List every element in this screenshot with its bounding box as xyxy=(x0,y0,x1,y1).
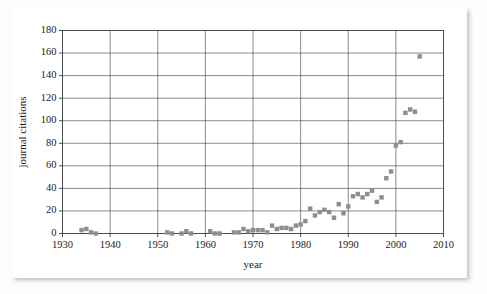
y-tick-label: 180 xyxy=(41,24,57,35)
data-point xyxy=(265,230,269,234)
data-point xyxy=(217,231,221,235)
data-point xyxy=(337,202,341,206)
data-point xyxy=(394,143,398,147)
data-point xyxy=(184,229,188,233)
data-point xyxy=(365,192,369,196)
data-point xyxy=(284,226,288,230)
data-point xyxy=(270,223,274,227)
data-point xyxy=(379,195,383,199)
x-axis-tick-labels: 193019401950196019701980199020002010 xyxy=(52,239,454,250)
data-point xyxy=(170,231,174,235)
y-axis-tick-labels: 020406080100120140160180 xyxy=(41,24,57,238)
data-point xyxy=(417,54,421,58)
data-point xyxy=(413,110,417,114)
y-axis-title: journal citations xyxy=(16,96,28,168)
data-point xyxy=(327,210,331,214)
data-points xyxy=(79,54,422,235)
data-point xyxy=(332,216,336,220)
y-tick-label: 100 xyxy=(41,114,57,125)
x-tick-label: 1960 xyxy=(195,239,216,250)
data-point xyxy=(403,111,407,115)
data-point xyxy=(389,169,393,173)
data-point xyxy=(384,176,388,180)
x-tick-label: 2000 xyxy=(385,239,406,250)
data-point xyxy=(313,213,317,217)
data-point xyxy=(165,230,169,234)
chart-canvas: 020406080100120140160180 193019401950196… xyxy=(0,0,487,294)
x-tick-label: 2010 xyxy=(433,239,454,250)
data-point xyxy=(237,230,241,234)
scatter-plot: 020406080100120140160180 193019401950196… xyxy=(0,0,487,294)
data-point xyxy=(303,219,307,223)
data-point xyxy=(213,231,217,235)
data-point xyxy=(308,206,312,210)
x-tick-label: 1980 xyxy=(290,239,311,250)
data-point xyxy=(294,223,298,227)
data-point xyxy=(260,228,264,232)
data-point xyxy=(251,228,255,232)
figure-root: 020406080100120140160180 193019401950196… xyxy=(0,0,487,294)
y-tick-label: 0 xyxy=(51,227,56,238)
data-point xyxy=(79,228,83,232)
data-point xyxy=(208,229,212,233)
gridlines xyxy=(63,31,444,234)
data-point xyxy=(356,192,360,196)
data-point xyxy=(346,204,350,208)
axis-ticks xyxy=(59,31,444,238)
x-tick-label: 1990 xyxy=(338,239,359,250)
y-tick-label: 160 xyxy=(41,46,57,57)
x-tick-label: 1950 xyxy=(147,239,168,250)
data-point xyxy=(408,107,412,111)
y-tick-label: 20 xyxy=(46,204,57,215)
x-tick-label: 1940 xyxy=(100,239,121,250)
data-point xyxy=(189,231,193,235)
data-point xyxy=(232,230,236,234)
data-point xyxy=(370,188,374,192)
data-point xyxy=(322,208,326,212)
data-point xyxy=(398,140,402,144)
data-point xyxy=(360,195,364,199)
y-tick-label: 80 xyxy=(46,137,57,148)
y-tick-label: 140 xyxy=(41,69,57,80)
y-tick-label: 40 xyxy=(46,182,57,193)
data-point xyxy=(351,194,355,198)
data-point xyxy=(94,231,98,235)
data-point xyxy=(275,227,279,231)
y-tick-label: 120 xyxy=(41,92,57,103)
data-point xyxy=(179,231,183,235)
x-tick-label: 1970 xyxy=(243,239,264,250)
data-point xyxy=(298,222,302,226)
data-point xyxy=(341,211,345,215)
data-point xyxy=(279,226,283,230)
x-tick-label: 1930 xyxy=(52,239,73,250)
data-point xyxy=(289,227,293,231)
y-tick-label: 60 xyxy=(46,159,57,170)
data-point xyxy=(89,230,93,234)
data-point xyxy=(241,227,245,231)
data-point xyxy=(375,200,379,204)
data-point xyxy=(256,228,260,232)
data-point xyxy=(84,227,88,231)
data-point xyxy=(317,210,321,214)
x-axis-title: year xyxy=(244,258,263,270)
data-point xyxy=(246,229,250,233)
